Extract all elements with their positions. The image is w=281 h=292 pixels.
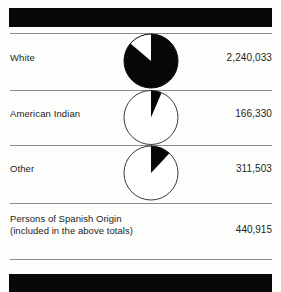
row-label-other: Other bbox=[10, 163, 34, 174]
row-label-white: White bbox=[10, 52, 35, 63]
table-row-spanish-origin[interactable]: Persons of Spanish Origin (included in t… bbox=[10, 203, 272, 259]
table-row-other[interactable]: Other 311,503 bbox=[10, 145, 272, 200]
row-value-american-indian: 166,330 bbox=[152, 108, 272, 119]
rule-below-spanish-origin-row bbox=[10, 259, 272, 260]
table-row-american-indian[interactable]: American Indian 166,330 bbox=[10, 90, 272, 145]
row-value-spanish-origin: 440,915 bbox=[152, 224, 272, 235]
row-label-spanish-origin: Persons of Spanish Origin (included in t… bbox=[10, 213, 133, 236]
table-row-white[interactable]: White 2,240,033 bbox=[10, 34, 272, 89]
row-label-american-indian: American Indian bbox=[10, 108, 80, 119]
census-population-table: White 2,240,033 American Indian 166,330 … bbox=[0, 0, 281, 292]
row-label-spanish-origin-line2: (included in the above totals) bbox=[10, 225, 133, 236]
row-label-spanish-origin-line1: Persons of Spanish Origin bbox=[10, 213, 122, 224]
top-black-bar bbox=[9, 8, 272, 27]
row-value-white: 2,240,033 bbox=[152, 52, 272, 63]
bottom-black-bar bbox=[9, 274, 272, 292]
row-value-other: 311,503 bbox=[152, 163, 272, 174]
